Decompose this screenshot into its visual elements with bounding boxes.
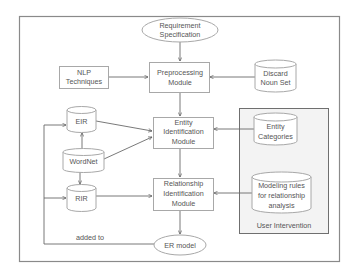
svg-text:WordNet: WordNet (69, 157, 97, 166)
node-entity-categories[interactable]: Entity Categories (254, 113, 297, 145)
svg-text:analysis: analysis (269, 201, 295, 210)
svg-text:Relationship: Relationship (164, 179, 204, 188)
node-modeling-rules[interactable]: Modeling rules for relationship analysis (252, 172, 311, 213)
svg-text:NLP: NLP (77, 68, 91, 77)
svg-text:RIR: RIR (75, 194, 87, 203)
svg-text:Module: Module (168, 78, 192, 87)
svg-text:EIR: EIR (76, 117, 88, 126)
node-nlp-techniques[interactable]: NLP Techniques (60, 67, 109, 89)
node-entity-identification-module[interactable]: Entity Identification Module (154, 118, 214, 149)
svg-text:Module: Module (172, 199, 196, 208)
node-eir[interactable]: EIR (67, 107, 96, 133)
svg-text:Entity: Entity (267, 122, 285, 131)
node-wordnet[interactable]: WordNet (63, 149, 104, 173)
node-requirement-specification[interactable]: Requirement Specification (142, 18, 218, 42)
svg-text:Discard: Discard (263, 69, 287, 78)
node-preprocessing-module[interactable]: Preprocessing Module (150, 63, 210, 93)
svg-text:Specification: Specification (160, 30, 201, 39)
svg-text:for relationship: for relationship (258, 191, 305, 200)
svg-text:Techniques: Techniques (66, 77, 103, 86)
svg-text:Categories: Categories (258, 132, 293, 141)
architecture-diagram: User Intervention added to Requirement S… (0, 0, 359, 274)
svg-text:Preprocessing: Preprocessing (157, 68, 203, 77)
svg-text:Noun Set: Noun Set (261, 78, 291, 87)
svg-text:ER model: ER model (164, 241, 196, 250)
user-intervention-label: User Intervention (257, 221, 312, 230)
svg-text:Identification: Identification (163, 127, 203, 136)
node-rir[interactable]: RIR (67, 185, 96, 212)
svg-text:Modeling rules: Modeling rules (258, 181, 305, 190)
added-to-label: added to (76, 233, 104, 242)
svg-text:Entity: Entity (175, 118, 193, 127)
node-relationship-identification-module[interactable]: Relationship Identification Module (154, 179, 214, 211)
svg-text:Module: Module (172, 137, 196, 146)
node-er-model[interactable]: ER model (154, 235, 206, 255)
svg-text:Requirement: Requirement (159, 21, 200, 30)
node-discard-noun-set[interactable]: Discard Noun Set (255, 60, 296, 92)
svg-text:Identification: Identification (163, 189, 203, 198)
